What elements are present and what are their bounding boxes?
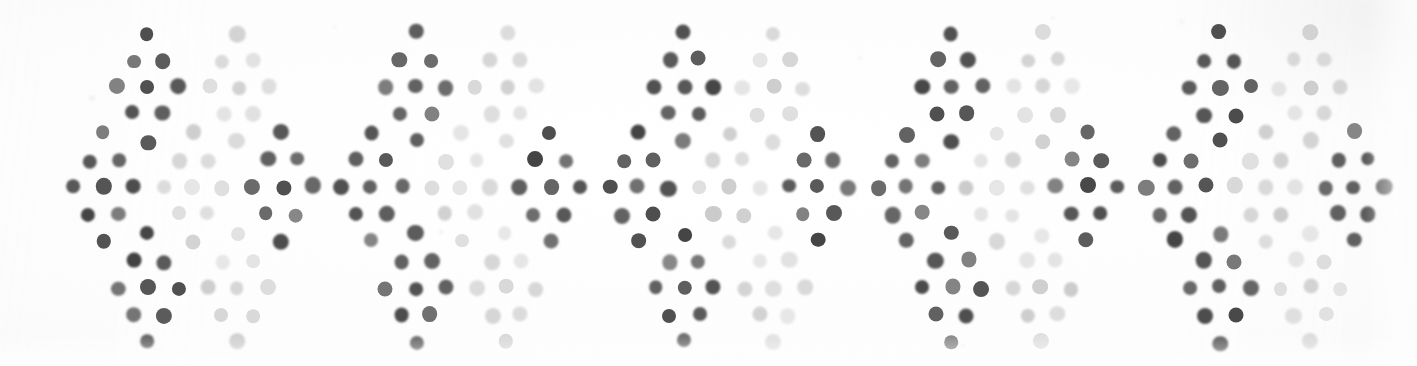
motif-dot (753, 181, 768, 196)
motif-dot (797, 153, 812, 168)
motif-dot (230, 333, 246, 349)
motif-dot (424, 253, 440, 269)
motif-dot (930, 52, 946, 68)
motif-dot (1181, 206, 1197, 222)
motif-dot (663, 52, 679, 68)
motif-dot (394, 307, 409, 322)
motif-dot (141, 334, 155, 348)
motif-dot (753, 53, 768, 68)
motif-dot (364, 126, 379, 141)
motif-dot (438, 80, 454, 96)
motif-dot (425, 180, 440, 195)
motif-dot (1152, 208, 1167, 223)
motif-dot (678, 228, 692, 242)
motif-dot (170, 78, 186, 94)
motif-dot (544, 179, 560, 195)
motif-dot (618, 155, 632, 169)
motif-dot (1211, 24, 1227, 40)
motif-dot (260, 279, 276, 295)
motif-dot (230, 281, 244, 295)
motif-dot (155, 53, 171, 69)
motif-dot (943, 27, 958, 42)
motif-dot (455, 234, 469, 248)
motif-dot (811, 232, 826, 247)
motif-dot (527, 208, 541, 222)
motif-dot (1244, 79, 1258, 93)
motif-dot (333, 179, 349, 195)
motif-dot (1316, 52, 1331, 67)
motif-dot (1033, 279, 1049, 295)
motif-dot (1094, 153, 1110, 169)
motif-dot (1259, 125, 1274, 140)
motif-dot (1316, 105, 1331, 120)
motif-dot (288, 208, 303, 223)
motif-dot (1330, 205, 1346, 221)
motif-dot (943, 134, 959, 150)
motif-dot (945, 279, 960, 294)
motif-dot (573, 180, 587, 194)
motif-dot (871, 180, 887, 196)
motif-dot (1302, 24, 1318, 40)
motif-dot (395, 179, 410, 194)
motif-dot (797, 280, 813, 296)
motif-dot (470, 153, 484, 167)
motif-dot (422, 306, 438, 322)
motif-dot (645, 153, 660, 168)
motif-dot (1035, 78, 1051, 94)
motif-dot (172, 206, 186, 220)
motif-dot (378, 281, 393, 296)
motif-dot (246, 254, 260, 268)
motif-dot (735, 80, 751, 96)
motif-dot (735, 152, 749, 166)
motif-dot (614, 208, 630, 224)
motif-dot (705, 79, 721, 95)
motif-dot (1184, 154, 1199, 169)
motif-dot (140, 279, 156, 295)
motif-dot (1005, 209, 1019, 223)
motif-dot (499, 279, 514, 294)
motif-dot (810, 127, 826, 143)
motif-dot (126, 179, 141, 194)
motif-dot (1006, 281, 1021, 296)
motif-dot (825, 152, 841, 168)
motif-dot (649, 280, 663, 294)
motif-dot (513, 253, 528, 268)
motif-dot (485, 308, 501, 324)
motif-dot (513, 106, 527, 120)
motif-dot (1017, 107, 1033, 123)
motif-dot (500, 80, 515, 95)
motif-dot (1228, 307, 1243, 322)
motif-dot (96, 125, 110, 139)
motif-dot (738, 281, 753, 296)
motif-dot (409, 24, 424, 39)
motif-dot (677, 80, 692, 95)
motif-dot (944, 336, 958, 350)
motif-dot (1304, 279, 1319, 294)
motif-dot (185, 235, 200, 250)
motif-dot (291, 152, 305, 166)
motif-dot (498, 227, 512, 241)
motif-dot (661, 106, 676, 121)
motif-dot (201, 153, 216, 168)
motif-dot (783, 106, 799, 122)
motif-dot (1287, 179, 1303, 195)
motif-dot (1050, 107, 1066, 123)
motif-dot (974, 208, 988, 222)
motif-dot (1197, 54, 1211, 68)
motif-dot (140, 80, 154, 94)
motif-dot (1361, 152, 1375, 166)
motif-dot (1110, 180, 1124, 194)
motif-dot (1019, 253, 1035, 269)
motif-dot (394, 255, 409, 270)
motif-dot (231, 227, 245, 241)
motif-dot (214, 308, 228, 322)
motif-dot (438, 154, 454, 170)
motif-dot (1021, 54, 1035, 68)
motif-dot (929, 106, 944, 121)
motif-dot (646, 207, 661, 222)
motif-dot (528, 282, 544, 298)
motif-dot (259, 207, 273, 221)
motif-dot (184, 179, 200, 195)
motif-dot (127, 55, 141, 69)
motif-dot (468, 80, 483, 95)
